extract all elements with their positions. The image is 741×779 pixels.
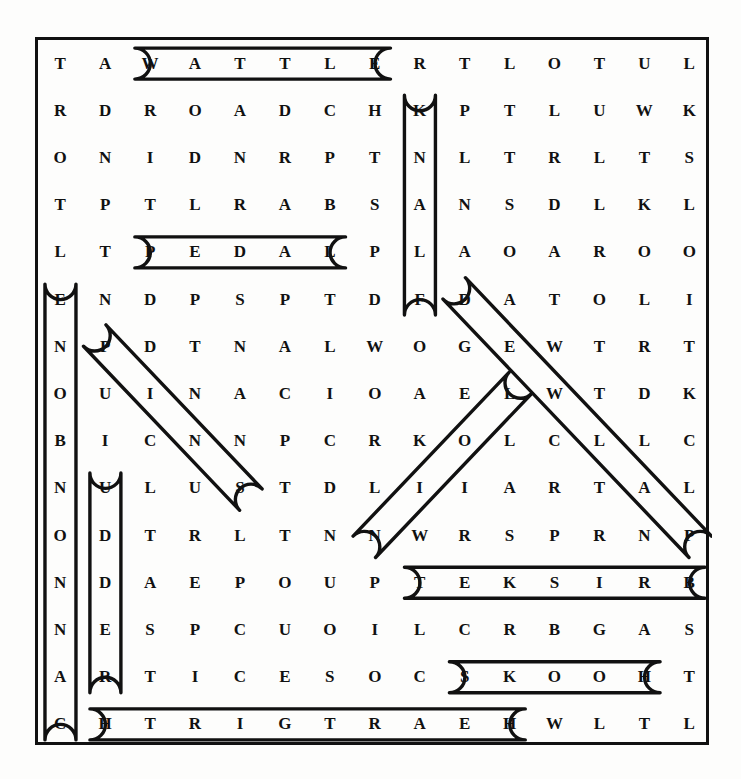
letter-cell[interactable]: D xyxy=(128,323,173,370)
letter-cell[interactable]: A xyxy=(38,654,83,701)
letter-cell[interactable]: R xyxy=(173,701,218,748)
letter-cell[interactable]: N xyxy=(218,418,263,465)
letter-cell[interactable]: C xyxy=(218,654,263,701)
letter-cell[interactable]: N xyxy=(83,276,128,323)
letter-cell[interactable]: O xyxy=(263,559,308,606)
letter-cell[interactable]: T xyxy=(622,134,667,181)
letter-cell[interactable]: R xyxy=(128,87,173,134)
letter-cell[interactable]: T xyxy=(667,323,712,370)
letter-cell[interactable]: T xyxy=(577,465,622,512)
letter-cell[interactable]: O xyxy=(308,606,353,653)
letter-cell[interactable]: O xyxy=(577,654,622,701)
letter-cell[interactable]: S xyxy=(667,606,712,653)
letter-cell[interactable]: R xyxy=(622,559,667,606)
letter-cell[interactable]: N xyxy=(218,323,263,370)
letter-cell[interactable]: D xyxy=(622,370,667,417)
letter-cell[interactable]: T xyxy=(397,559,442,606)
letter-cell[interactable]: I xyxy=(128,370,173,417)
letter-cell[interactable]: C xyxy=(38,701,83,748)
letter-cell[interactable]: S xyxy=(487,182,532,229)
letter-cell[interactable]: L xyxy=(442,134,487,181)
letter-cell[interactable]: E xyxy=(442,701,487,748)
letter-cell[interactable]: L xyxy=(487,40,532,87)
letter-cell[interactable]: N xyxy=(397,134,442,181)
letter-cell[interactable]: A xyxy=(397,701,442,748)
letter-cell[interactable]: S xyxy=(218,465,263,512)
letter-cell[interactable]: N xyxy=(442,182,487,229)
letter-cell[interactable]: S xyxy=(667,134,712,181)
letter-cell[interactable]: O xyxy=(38,134,83,181)
letter-cell[interactable]: P xyxy=(128,229,173,276)
letter-cell[interactable]: T xyxy=(218,40,263,87)
letter-cell[interactable]: D xyxy=(532,182,577,229)
letter-cell[interactable]: P xyxy=(83,182,128,229)
letter-cell[interactable]: G xyxy=(442,323,487,370)
letter-cell[interactable]: U xyxy=(577,87,622,134)
letter-cell[interactable]: T xyxy=(577,323,622,370)
letter-cell[interactable]: I xyxy=(397,465,442,512)
letter-cell[interactable]: O xyxy=(38,512,83,559)
letter-cell[interactable]: T xyxy=(308,276,353,323)
letter-cell[interactable]: D xyxy=(83,512,128,559)
letter-cell[interactable]: K xyxy=(622,182,667,229)
letter-cell[interactable]: E xyxy=(263,654,308,701)
letter-cell[interactable]: A xyxy=(263,229,308,276)
letter-cell[interactable]: B xyxy=(308,182,353,229)
letter-cell[interactable]: R xyxy=(263,134,308,181)
letter-cell[interactable]: U xyxy=(622,40,667,87)
letter-cell[interactable]: D xyxy=(83,87,128,134)
letter-cell[interactable]: P xyxy=(173,276,218,323)
letter-cell[interactable]: O xyxy=(397,323,442,370)
letter-cell[interactable]: O xyxy=(532,40,577,87)
letter-cell[interactable]: I xyxy=(667,276,712,323)
letter-cell[interactable]: A xyxy=(397,182,442,229)
letter-cell[interactable]: O xyxy=(487,229,532,276)
letter-cell[interactable]: A xyxy=(218,370,263,417)
letter-cell[interactable]: O xyxy=(532,654,577,701)
letter-cell[interactable]: D xyxy=(218,229,263,276)
letter-cell[interactable]: T xyxy=(128,654,173,701)
letter-cell[interactable]: A xyxy=(532,229,577,276)
letter-cell[interactable]: T xyxy=(128,512,173,559)
letter-cell[interactable]: L xyxy=(577,134,622,181)
letter-cell[interactable]: L xyxy=(577,418,622,465)
letter-cell[interactable]: D xyxy=(128,276,173,323)
letter-cell[interactable]: T xyxy=(442,40,487,87)
letter-cell[interactable]: K xyxy=(397,418,442,465)
letter-cell[interactable]: S xyxy=(442,654,487,701)
letter-cell[interactable]: B xyxy=(667,559,712,606)
letter-cell[interactable]: I xyxy=(173,654,218,701)
letter-cell[interactable]: B xyxy=(532,606,577,653)
letter-cell[interactable]: R xyxy=(442,512,487,559)
letter-cell[interactable]: U xyxy=(308,559,353,606)
letter-cell[interactable]: L xyxy=(173,182,218,229)
letter-cell[interactable]: O xyxy=(353,654,398,701)
letter-cell[interactable]: L xyxy=(353,465,398,512)
letter-cell[interactable]: S xyxy=(353,182,398,229)
letter-cell[interactable]: L xyxy=(308,229,353,276)
letter-cell[interactable]: L xyxy=(532,87,577,134)
letter-cell[interactable]: T xyxy=(308,701,353,748)
letter-cell[interactable]: D xyxy=(442,276,487,323)
letter-cell[interactable]: C xyxy=(308,418,353,465)
letter-cell[interactable]: R xyxy=(353,701,398,748)
letter-cell[interactable]: T xyxy=(487,134,532,181)
letter-cell[interactable]: D xyxy=(263,87,308,134)
letter-cell[interactable]: R xyxy=(577,512,622,559)
letter-cell[interactable]: L xyxy=(218,512,263,559)
letter-cell[interactable]: O xyxy=(173,87,218,134)
letter-cell[interactable]: W xyxy=(128,40,173,87)
letter-cell[interactable]: W xyxy=(622,87,667,134)
letter-cell[interactable]: P xyxy=(173,606,218,653)
letter-cell[interactable]: L xyxy=(397,606,442,653)
letter-cell[interactable]: U xyxy=(173,465,218,512)
letter-cell[interactable]: L xyxy=(487,370,532,417)
letter-cell[interactable]: P xyxy=(218,559,263,606)
letter-cell[interactable]: D xyxy=(353,276,398,323)
letter-cell[interactable]: N xyxy=(83,134,128,181)
letter-cell[interactable]: T xyxy=(263,40,308,87)
letter-cell[interactable]: H xyxy=(83,701,128,748)
letter-cell[interactable]: P xyxy=(353,229,398,276)
letter-cell[interactable]: T xyxy=(263,465,308,512)
letter-cell[interactable]: A xyxy=(397,370,442,417)
